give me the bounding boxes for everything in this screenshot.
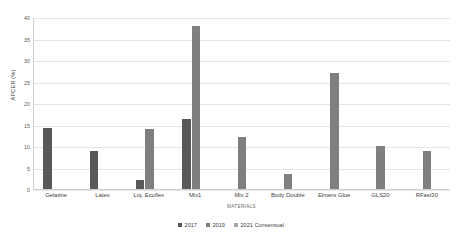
bar bbox=[90, 151, 99, 189]
bar bbox=[182, 119, 191, 189]
plot-area bbox=[33, 18, 450, 190]
bar bbox=[238, 137, 247, 189]
bar bbox=[192, 26, 201, 189]
bar-chart: APCER (%) 4035302520151050 GelatineLatex… bbox=[0, 0, 462, 239]
legend-swatch-icon bbox=[234, 223, 238, 227]
bar bbox=[145, 129, 154, 189]
legend-swatch-icon bbox=[206, 223, 210, 227]
legend-label: 2021 Consensual bbox=[240, 222, 284, 228]
bar-group bbox=[311, 18, 357, 189]
bar-group bbox=[80, 18, 126, 189]
legend-item[interactable]: 2017 bbox=[178, 222, 197, 228]
y-axis-tick-label: 15 bbox=[14, 123, 30, 129]
x-axis-tick-label: Gelatine bbox=[33, 192, 79, 198]
bar-group bbox=[265, 18, 311, 189]
legend-swatch-icon bbox=[178, 223, 182, 227]
x-axis-tick-label: RFast30 bbox=[404, 192, 450, 198]
legend-item[interactable]: 2021 Consensual bbox=[234, 222, 284, 228]
bar bbox=[136, 180, 145, 189]
bar bbox=[376, 146, 385, 189]
chart-legend: 201720192021 Consensual bbox=[0, 222, 462, 228]
x-axis-tick-label: Latex bbox=[79, 192, 125, 198]
x-axis-tick-label: GLS20 bbox=[357, 192, 403, 198]
x-axis-tick-label: Elmers Glue bbox=[311, 192, 357, 198]
y-axis-tick-label: 10 bbox=[14, 144, 30, 150]
bar bbox=[43, 128, 52, 189]
gridline bbox=[34, 190, 450, 191]
y-axis-tick-label: 30 bbox=[14, 58, 30, 64]
y-axis-tick-labels: 4035302520151050 bbox=[14, 18, 30, 190]
y-axis-tick-label: 25 bbox=[14, 80, 30, 86]
bar bbox=[284, 174, 293, 189]
bar bbox=[423, 151, 432, 189]
x-axis-title: MATERIALS bbox=[33, 204, 450, 209]
bar-group bbox=[358, 18, 404, 189]
legend-item[interactable]: 2019 bbox=[206, 222, 225, 228]
y-axis-tick-label: 35 bbox=[14, 37, 30, 43]
y-axis-tick-label: 5 bbox=[14, 166, 30, 172]
x-axis-tick-label: Liq. Ecoflex bbox=[126, 192, 172, 198]
bar-group bbox=[126, 18, 172, 189]
bar bbox=[330, 73, 339, 189]
x-axis-tick-label: Mix1 bbox=[172, 192, 218, 198]
bar-groups bbox=[34, 18, 450, 189]
x-axis-tick-label: Body Double bbox=[265, 192, 311, 198]
y-axis-tick-label: 0 bbox=[14, 187, 30, 193]
y-axis-tick-label: 20 bbox=[14, 101, 30, 107]
y-axis-tick-label: 40 bbox=[14, 15, 30, 21]
bar-group bbox=[173, 18, 219, 189]
legend-label: 2019 bbox=[212, 222, 224, 228]
bar-group bbox=[34, 18, 80, 189]
x-axis-tick-label: Mix 2 bbox=[218, 192, 264, 198]
legend-label: 2017 bbox=[185, 222, 197, 228]
x-axis-tick-labels: GelatineLatexLiq. EcoflexMix1Mix 2Body D… bbox=[33, 192, 450, 198]
bar-group bbox=[404, 18, 450, 189]
bar-group bbox=[219, 18, 265, 189]
